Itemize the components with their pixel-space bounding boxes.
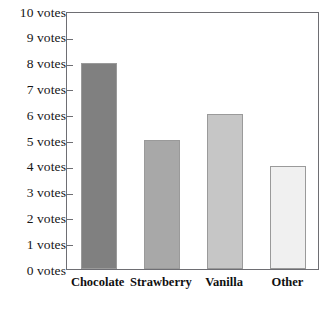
y-axis-tick-label: 1 votes bbox=[4, 238, 66, 252]
y-axis-tick-label: 0 votes bbox=[4, 264, 66, 278]
x-axis-category-label: Strawberry bbox=[129, 274, 192, 290]
y-axis-tick-label: 8 votes bbox=[4, 57, 66, 71]
plot-area bbox=[66, 12, 319, 270]
x-axis-category-labels: ChocolateStrawberryVanillaOther bbox=[66, 274, 319, 298]
x-axis-category-label: Vanilla bbox=[193, 274, 256, 290]
y-axis-tick-label: 7 votes bbox=[4, 83, 66, 97]
bars-container bbox=[67, 13, 318, 269]
bar-chart: 10 votes9 votes8 votes7 votes6 votes5 vo… bbox=[0, 0, 327, 309]
bar bbox=[207, 114, 243, 269]
y-axis-tick-labels: 10 votes9 votes8 votes7 votes6 votes5 vo… bbox=[0, 0, 66, 309]
bar bbox=[270, 166, 306, 269]
bar bbox=[81, 63, 117, 269]
x-axis-category-label: Chocolate bbox=[66, 274, 129, 290]
y-axis-tick-label: 6 votes bbox=[4, 109, 66, 123]
y-axis-tick-label: 10 votes bbox=[4, 6, 66, 20]
y-axis-tick-label: 4 votes bbox=[4, 160, 66, 174]
y-axis-tick-label: 5 votes bbox=[4, 135, 66, 149]
y-axis-tick-label: 3 votes bbox=[4, 186, 66, 200]
y-axis-tick-label: 9 votes bbox=[4, 31, 66, 45]
bar bbox=[144, 140, 180, 269]
x-axis-category-label: Other bbox=[256, 274, 319, 290]
y-axis-tick-label: 2 votes bbox=[4, 212, 66, 226]
